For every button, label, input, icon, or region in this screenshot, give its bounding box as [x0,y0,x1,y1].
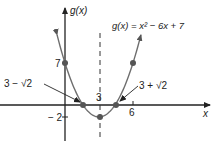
tick-6-label: 6 [129,107,135,118]
root-right-label: 3 + √2 [139,80,167,91]
point-root-right [113,102,119,108]
tick-3-label: 3 [96,92,102,103]
tick-neg2-label: − 2 [48,112,63,123]
parabola-graph: g(x) g(x) = x² − 6x + 7 7 − 2 3 6 3 − √2… [0,0,212,151]
point-vertex [97,114,103,120]
root-left-label: 3 − √2 [4,78,32,89]
point-y-intercept [62,60,68,66]
root-right-pointer [120,86,138,101]
equation-label: g(x) = x² − 6x + 7 [112,20,185,31]
point-root-left [80,102,86,108]
y-axis-label: g(x) [70,5,87,16]
tick-7-label: 7 [55,58,61,69]
point-six-seven [130,60,136,66]
data-points [62,60,136,120]
x-axis-label: x [202,108,209,119]
root-left-pointer [44,84,80,102]
